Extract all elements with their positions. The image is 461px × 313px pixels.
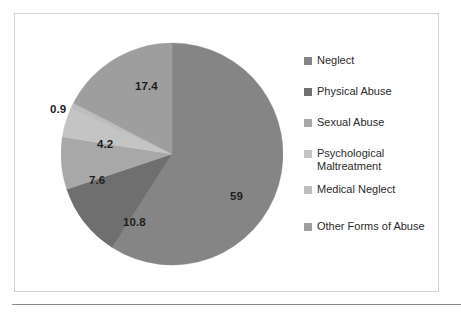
legend-label-psychological-line1: Psychological <box>317 147 384 159</box>
pie-slices-group <box>61 43 283 265</box>
legend-label-other-forms-of-abuse: Other Forms of Abuse <box>317 220 425 233</box>
legend-item-other-forms-of-abuse[interactable]: Other Forms of Abuse <box>304 220 454 233</box>
chart-legend: Neglect Physical Abuse Sexual Abuse Psyc… <box>304 54 454 233</box>
data-label-psychological-maltreatment: 4.2 <box>97 138 113 150</box>
legend-swatch-icon-neglect <box>304 57 312 65</box>
legend-swatch-icon-medical-neglect <box>304 186 312 194</box>
data-label-sexual-abuse: 7.6 <box>89 174 105 186</box>
bottom-separator-rule <box>12 304 461 305</box>
pie-svg <box>61 38 283 270</box>
legend-item-neglect[interactable]: Neglect <box>304 54 454 67</box>
legend-swatch-icon-other-forms-of-abuse <box>304 223 312 231</box>
chart-frame: 59 10.8 7.6 4.2 0.9 17.4 Neglect Physica… <box>14 13 439 292</box>
data-label-medical-neglect: 0.9 <box>50 103 66 115</box>
legend-label-sexual-abuse: Sexual Abuse <box>317 116 384 129</box>
legend-item-medical-neglect[interactable]: Medical Neglect <box>304 183 454 196</box>
legend-swatch-icon-sexual-abuse <box>304 119 312 127</box>
pie-plot-area <box>61 38 283 270</box>
legend-label-medical-neglect: Medical Neglect <box>317 183 395 196</box>
legend-swatch-icon-physical-abuse <box>304 88 312 96</box>
legend-label-neglect: Neglect <box>317 54 354 67</box>
data-label-other-forms-of-abuse: 17.4 <box>135 80 158 92</box>
legend-item-psychological-maltreatment[interactable]: Psychological Maltreatment <box>304 147 454 173</box>
pie-chart-figure: 59 10.8 7.6 4.2 0.9 17.4 Neglect Physica… <box>0 0 461 313</box>
legend-label-psychological-line2: Maltreatment <box>317 160 381 172</box>
legend-swatch-icon-psychological-maltreatment <box>304 150 312 158</box>
legend-item-sexual-abuse[interactable]: Sexual Abuse <box>304 116 454 129</box>
legend-label-physical-abuse: Physical Abuse <box>317 85 392 98</box>
data-label-physical-abuse: 10.8 <box>123 216 146 228</box>
data-label-neglect: 59 <box>230 190 243 202</box>
legend-item-physical-abuse[interactable]: Physical Abuse <box>304 85 454 98</box>
legend-label-psychological-maltreatment: Psychological Maltreatment <box>317 147 384 173</box>
